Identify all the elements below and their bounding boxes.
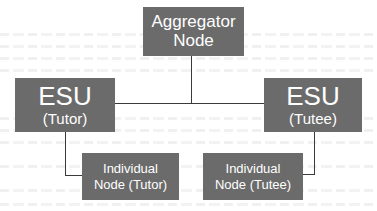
background-text-noise <box>0 69 377 72</box>
connector-esu-tutor-right <box>65 175 82 176</box>
esu-tutor-subtitle: (Tutor) <box>43 110 87 128</box>
individual-node-tutee: Individual Node (Tutee) <box>203 153 303 200</box>
background-text-noise <box>0 189 377 192</box>
individual-tutee-line1: Individual <box>226 161 281 177</box>
background-text-noise <box>0 141 377 144</box>
aggregator-node-line1: Aggregator <box>151 13 235 32</box>
esu-tutee-node: ESU (Tutee) <box>264 78 362 132</box>
connector-horizontal-esu <box>115 103 264 104</box>
connector-esu-tutor-down <box>65 132 66 176</box>
background-text-noise <box>0 165 377 168</box>
background-text-noise <box>0 57 377 60</box>
individual-tutor-line2: Node (Tutor) <box>94 177 167 193</box>
individual-tutee-line2: Node (Tutee) <box>215 177 291 193</box>
individual-node-tutor: Individual Node (Tutor) <box>82 153 179 200</box>
esu-tutor-title: ESU <box>38 82 91 110</box>
connector-esu-tutee-left <box>303 174 315 175</box>
connector-aggregator-down <box>191 56 192 103</box>
esu-tutor-node: ESU (Tutor) <box>15 78 115 132</box>
esu-tutee-subtitle: (Tutee) <box>289 110 337 128</box>
connector-esu-tutee-down <box>314 132 315 175</box>
individual-tutor-line1: Individual <box>103 161 158 177</box>
aggregator-node-line2: Node <box>173 32 214 51</box>
aggregator-node: Aggregator Node <box>143 7 244 56</box>
background-text-noise <box>0 203 377 206</box>
esu-tutee-title: ESU <box>286 82 339 110</box>
